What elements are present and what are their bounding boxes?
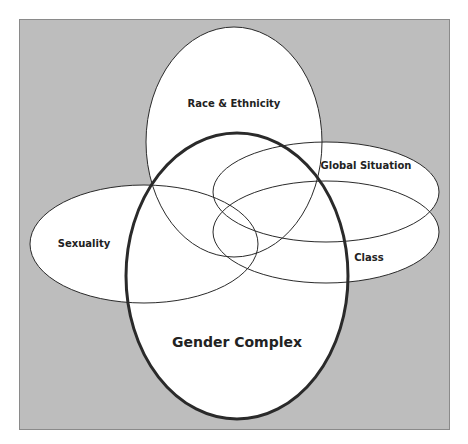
class-label: Class	[354, 252, 383, 263]
race-ethnicity-label: Race & Ethnicity	[188, 98, 281, 109]
intersectionality-venn-diagram: Race & Ethnicity Global Situation Class …	[0, 0, 468, 444]
sexuality-label: Sexuality	[58, 238, 111, 249]
gender-complex-label: Gender Complex	[172, 334, 302, 350]
global-situation-label: Global Situation	[321, 160, 412, 171]
